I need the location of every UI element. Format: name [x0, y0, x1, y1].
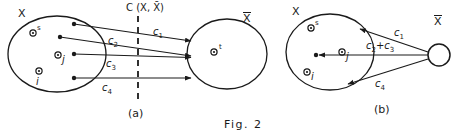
- c1-sub: 1: [159, 32, 163, 40]
- panel-a-edge-c2-label: c2: [108, 36, 118, 49]
- panel-a-edge-c1: [72, 22, 191, 41]
- panel-b-edge-c4: [348, 59, 428, 84]
- panel-a-edge-c4: [72, 76, 191, 80]
- b-plus-c3: +c: [376, 40, 390, 51]
- panel-a-cut-label: C (X, X̄): [126, 3, 164, 13]
- panel-a-node-i: [36, 68, 42, 74]
- panel-b-node-s: [308, 25, 314, 31]
- panel-a-sink-set-blob: [187, 19, 267, 89]
- panel-a-node-t: [211, 49, 217, 55]
- panel-a-node-i-label: i: [36, 77, 39, 87]
- c4-sub: 4: [108, 88, 112, 96]
- panel-a-edge-c3: [72, 52, 191, 58]
- node-t-text: t: [219, 43, 222, 51]
- panel-a-sink-set-label: X: [243, 12, 251, 24]
- b-c1-sub: 1: [400, 33, 404, 41]
- panel-a-node-s-label: s: [37, 25, 41, 36]
- panel-a-node-j: [55, 52, 61, 58]
- c2-sub: 2: [114, 41, 118, 49]
- panel-b-source-set-blob: [286, 14, 374, 90]
- panel-a-node-j-label: j: [62, 55, 65, 65]
- overbar-x: X: [243, 12, 251, 24]
- panel-b-sink-set-label: X: [434, 15, 442, 27]
- panel-b-edge-c2-plus-c3-label: c2+c3: [366, 41, 394, 54]
- panel-a-edge-c3-label: c3: [106, 59, 116, 72]
- panel-b-node-j-label: j: [346, 52, 349, 62]
- b-c4-sub: 4: [381, 84, 385, 92]
- node-s-text: s: [37, 24, 41, 32]
- figure-container: X X C (X, X̄) s j i t c1 c2 c3 c4 (a) X …: [0, 0, 463, 136]
- panel-a-caption: (a): [128, 108, 143, 119]
- overbar-x-b: X: [434, 15, 442, 27]
- panel-b-node-i-label: i: [311, 72, 314, 82]
- panel-a-edge-c4-label: c4: [102, 83, 112, 96]
- panel-b-source-set-label: X: [292, 6, 300, 17]
- diagram-canvas: [0, 0, 463, 136]
- panel-b-sink-node: [428, 44, 450, 66]
- panel-a-node-s: [30, 30, 36, 36]
- panel-b-node-i: [304, 69, 310, 75]
- node-s-text-b: s: [315, 19, 319, 27]
- figure-caption: Fig. 2: [224, 119, 263, 130]
- panel-b-caption: (b): [374, 104, 390, 115]
- b-c3-sub: 3: [390, 46, 394, 54]
- panel-a-node-t-label: t: [219, 44, 222, 55]
- panel-b-edge-c4-label: c4: [375, 79, 385, 92]
- panel-a-source-set-label: X: [18, 8, 26, 19]
- c3-sub: 3: [112, 64, 116, 72]
- panel-b-node-s-label: s: [315, 20, 319, 31]
- panel-b-node-j: [339, 49, 345, 55]
- panel-b-edge-c1-label: c1: [394, 28, 404, 41]
- panel-a-edge-c1-label: c1: [153, 27, 163, 40]
